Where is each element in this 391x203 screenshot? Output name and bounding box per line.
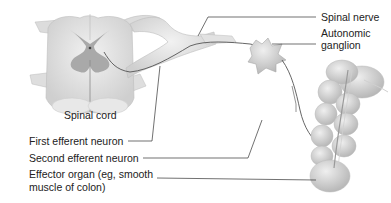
autonomic-ganglion [248, 38, 286, 74]
second-efferent-neuron-label: Second efferent neuron [29, 152, 139, 164]
autonomic-ganglion-label-line1: Autonomic [321, 27, 371, 39]
spinal-nerve [126, 17, 236, 78]
autonomic-ganglion-label-line2: ganglion [321, 39, 361, 51]
effector-organ-leader [157, 178, 316, 180]
diagram: Spinal cord Spinal nerve Autonomic gangl… [0, 0, 391, 203]
first-efferent-neuron-label: First efferent neuron [29, 135, 123, 147]
spinal-nerve-leader [198, 17, 316, 36]
spinal-nerve-label: Spinal nerve [321, 11, 379, 23]
second-efferent-neuron-leader [143, 120, 262, 158]
spinal-cord-label: Spinal cord [64, 109, 117, 121]
colon [310, 60, 388, 192]
effector-organ-label-line1: Effector organ (eg, smooth [29, 168, 153, 180]
effector-organ-label-line2: muscle of colon) [29, 181, 105, 193]
